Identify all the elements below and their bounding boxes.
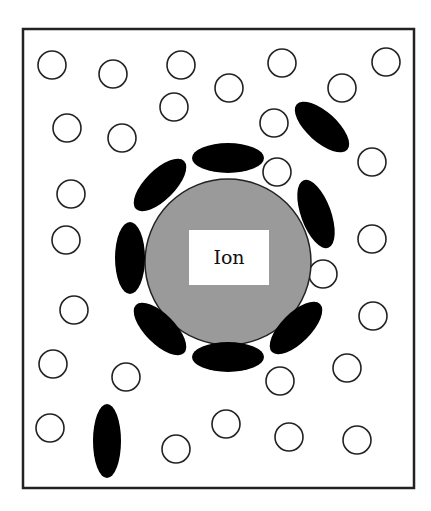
nonpolar-molecule [53,114,81,142]
nonpolar-molecule [99,60,127,88]
polar-solvent-molecule [93,404,121,478]
nonpolar-molecule [260,109,288,137]
nonpolar-molecule [359,302,387,330]
nonpolar-molecule [36,414,64,442]
nonpolar-molecule [162,435,190,463]
polar-solvent-molecule [192,143,264,173]
polar-solvent-molecule [192,342,264,372]
nonpolar-molecule [160,93,188,121]
polar-solvent-molecule [115,222,145,294]
nonpolar-molecule [39,350,67,378]
nonpolar-molecule [52,226,80,254]
nonpolar-molecule [309,260,337,288]
nonpolar-molecule [215,74,243,102]
nonpolar-molecule [358,225,386,253]
nonpolar-molecule [358,148,386,176]
nonpolar-molecule [60,296,88,324]
nonpolar-molecule [112,363,140,391]
nonpolar-molecule [38,51,66,79]
nonpolar-molecule [212,410,240,438]
nonpolar-molecule [268,49,296,77]
nonpolar-molecule [57,180,85,208]
nonpolar-molecule [328,74,356,102]
nonpolar-molecule [263,158,291,186]
nonpolar-molecule [275,423,303,451]
nonpolar-molecule [372,48,400,76]
ion-label: Ion [213,246,244,268]
nonpolar-molecule [108,124,136,152]
nonpolar-molecule [266,367,294,395]
nonpolar-molecule [333,354,361,382]
nonpolar-molecule [343,426,371,454]
ion-solvation-diagram: Ion [0,0,431,511]
nonpolar-molecule [167,51,195,79]
